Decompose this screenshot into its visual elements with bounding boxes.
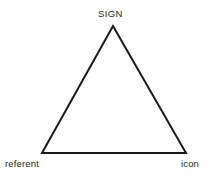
- triangle-shape: [0, 0, 212, 176]
- vertex-label-sign: SIGN: [98, 8, 123, 19]
- triangle-outline: [42, 26, 186, 153]
- vertex-label-icon: icon: [181, 158, 199, 169]
- semiotic-triangle-diagram: SIGN referent icon: [0, 0, 212, 176]
- vertex-label-referent: referent: [5, 158, 39, 169]
